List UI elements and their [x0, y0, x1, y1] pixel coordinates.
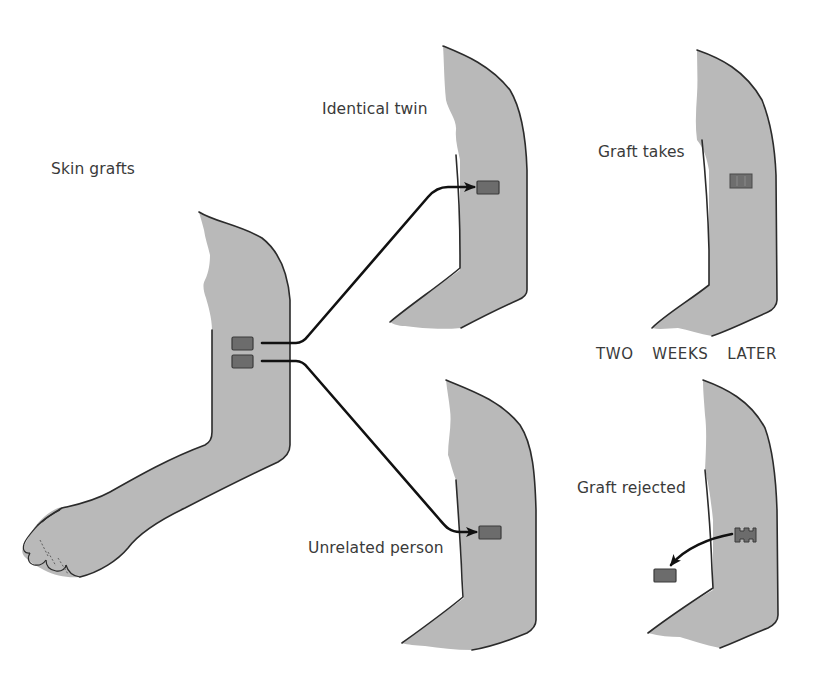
label-graft-rejected: Graft rejected: [577, 479, 686, 497]
donor-graft-bottom: [232, 355, 253, 368]
unrelated-graft: [479, 526, 501, 539]
label-two-weeks-later: TWO WEEKS LATER: [596, 345, 777, 363]
twin-graft: [477, 181, 499, 194]
unrelated-person-arm: [402, 380, 536, 650]
label-graft-takes: Graft takes: [598, 143, 685, 161]
taken-graft: [730, 174, 752, 188]
label-unrelated-person: Unrelated person: [308, 539, 444, 557]
arrow-to-unrelated-person: [262, 361, 476, 532]
donor-graft-top: [232, 337, 253, 350]
label-skin-grafts: Skin grafts: [51, 160, 135, 178]
graft-takes-arm: [652, 50, 777, 336]
rejected-graft-site: [735, 528, 756, 542]
donor-arm: [22, 212, 290, 577]
graft-rejected-arm: [648, 380, 778, 648]
detached-graft: [654, 569, 676, 582]
label-identical-twin: Identical twin: [322, 100, 428, 118]
